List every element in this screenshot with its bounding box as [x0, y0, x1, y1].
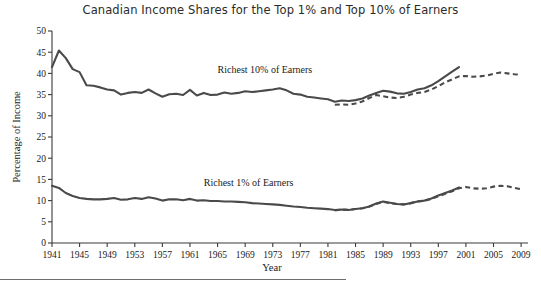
x-tick-label: 1957 — [153, 250, 172, 260]
x-tick-label: 1965 — [208, 250, 227, 260]
x-tick-label: 1989 — [374, 250, 393, 260]
x-tick-label: 1997 — [429, 250, 448, 260]
y-tick-label: 15 — [37, 175, 47, 185]
x-tick-label: 2009 — [512, 250, 531, 260]
series-annotation-1: Richest 10% of Earners — [218, 64, 313, 75]
series-line-4 — [335, 186, 521, 211]
y-tick-label: 50 — [37, 26, 47, 36]
y-tick-label: 30 — [37, 111, 47, 121]
y-tick-label: 45 — [37, 48, 47, 58]
x-tick-label: 2005 — [484, 250, 503, 260]
y-axis-title: Percentage of Income — [11, 91, 22, 183]
y-tick-label: 10 — [37, 196, 47, 206]
x-axis-title: Year — [262, 262, 282, 273]
footer-divider — [0, 279, 346, 280]
x-tick-label: 1985 — [346, 250, 365, 260]
x-tick-label: 1953 — [125, 250, 144, 260]
y-tick-label: 40 — [37, 69, 47, 79]
y-tick-label: 5 — [41, 217, 46, 227]
series-line-3 — [52, 186, 459, 210]
x-tick-label: 1969 — [236, 250, 255, 260]
x-tick-label: 1993 — [401, 250, 420, 260]
series-annotation-2: Richest 1% of Earners — [204, 177, 294, 188]
chart-figure: Canadian Income Shares for the Top 1% an… — [0, 0, 541, 288]
chart-plot-area: 0510152025303540455019411945194919531957… — [0, 0, 541, 288]
x-tick-label: 2001 — [456, 250, 475, 260]
x-tick-label: 1941 — [43, 250, 62, 260]
x-tick-label: 1973 — [263, 250, 282, 260]
series-line-1 — [52, 51, 459, 102]
series-line-2 — [335, 73, 521, 105]
x-tick-label: 1945 — [70, 250, 89, 260]
x-tick-label: 1961 — [180, 250, 199, 260]
y-tick-label: 0 — [41, 238, 46, 248]
x-tick-label: 1977 — [291, 250, 310, 260]
y-tick-label: 25 — [37, 132, 47, 142]
x-tick-label: 1949 — [98, 250, 117, 260]
y-tick-label: 20 — [37, 154, 47, 164]
y-tick-label: 35 — [37, 90, 47, 100]
x-tick-label: 1981 — [318, 250, 337, 260]
